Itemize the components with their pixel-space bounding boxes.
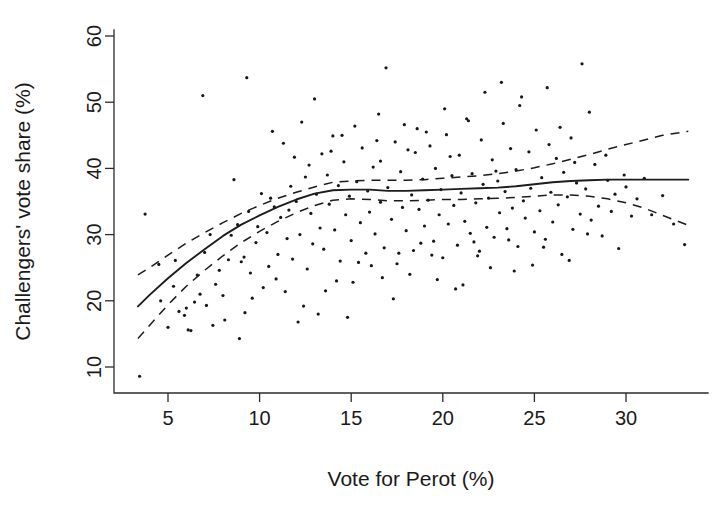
data-point xyxy=(566,195,569,198)
data-point xyxy=(509,147,512,150)
data-point xyxy=(322,248,325,251)
data-point xyxy=(392,297,395,300)
data-point xyxy=(361,146,364,149)
data-point xyxy=(271,130,274,133)
data-point xyxy=(198,293,201,296)
data-point xyxy=(174,259,177,262)
data-point xyxy=(238,337,241,340)
data-point xyxy=(306,267,309,270)
data-point xyxy=(496,179,499,182)
data-point xyxy=(342,160,345,163)
fit-curves xyxy=(138,131,688,338)
data-point xyxy=(285,237,288,240)
data-point xyxy=(478,250,481,253)
data-point xyxy=(610,210,613,213)
y-tick-label: 20 xyxy=(83,290,105,312)
data-point xyxy=(469,232,472,235)
data-point xyxy=(458,154,461,157)
data-point xyxy=(471,172,474,175)
data-point xyxy=(410,193,413,196)
data-point xyxy=(348,195,351,198)
data-point xyxy=(482,183,485,186)
x-tick-label: 5 xyxy=(162,407,173,429)
data-point xyxy=(324,289,327,292)
data-point xyxy=(476,254,479,257)
data-point xyxy=(205,304,208,307)
data-point xyxy=(500,81,503,84)
data-point xyxy=(573,161,576,164)
data-point xyxy=(201,94,204,97)
data-point xyxy=(357,261,360,264)
data-point xyxy=(601,234,604,237)
data-point xyxy=(232,178,235,181)
data-point xyxy=(535,128,538,131)
data-point xyxy=(284,290,287,293)
data-point xyxy=(450,174,453,177)
data-point xyxy=(485,226,488,229)
data-point xyxy=(318,226,321,229)
y-tick-label: 30 xyxy=(83,223,105,245)
data-point xyxy=(405,229,408,232)
x-axis-title: Vote for Perot (%) xyxy=(328,467,495,490)
data-point xyxy=(172,285,175,288)
data-point xyxy=(661,194,664,197)
data-point xyxy=(524,216,527,219)
data-point xyxy=(242,256,245,259)
data-point xyxy=(613,193,616,196)
data-point xyxy=(383,246,386,249)
data-point xyxy=(423,224,426,227)
data-point xyxy=(516,245,519,248)
data-point xyxy=(513,269,516,272)
data-point xyxy=(346,316,349,319)
data-point xyxy=(406,148,409,151)
data-point xyxy=(588,111,591,114)
data-point xyxy=(311,242,314,245)
data-point xyxy=(417,208,420,211)
data-point xyxy=(489,266,492,269)
data-point xyxy=(337,184,340,187)
data-point xyxy=(296,320,299,323)
data-point xyxy=(430,254,433,257)
axis-spines xyxy=(114,30,708,393)
data-point xyxy=(304,175,307,178)
data-point xyxy=(461,283,464,286)
axis-labels: 51015202530102030405060Vote for Perot (%… xyxy=(11,25,637,490)
data-point xyxy=(227,258,230,261)
data-point xyxy=(189,329,192,332)
data-point xyxy=(568,259,571,262)
data-point xyxy=(359,221,362,224)
data-point xyxy=(390,218,393,221)
data-point xyxy=(474,201,477,204)
data-point xyxy=(209,233,212,236)
data-point xyxy=(483,91,486,94)
data-point xyxy=(377,113,380,116)
data-point xyxy=(425,130,428,133)
data-point xyxy=(386,186,389,189)
data-point xyxy=(412,249,415,252)
scatter-points xyxy=(138,62,686,378)
data-point xyxy=(331,134,334,137)
data-point xyxy=(218,269,221,272)
data-point xyxy=(531,263,534,266)
data-point xyxy=(480,138,483,141)
data-point xyxy=(157,263,160,266)
data-point xyxy=(460,191,463,194)
data-point xyxy=(544,238,547,241)
data-point xyxy=(522,199,525,202)
data-point xyxy=(445,133,448,136)
data-point xyxy=(211,324,214,327)
data-point xyxy=(302,305,305,308)
data-point xyxy=(549,191,552,194)
data-point xyxy=(144,212,147,215)
data-point xyxy=(373,232,376,235)
data-point xyxy=(166,326,169,329)
data-point xyxy=(269,197,272,200)
data-point xyxy=(491,158,494,161)
data-point xyxy=(580,62,583,65)
data-point xyxy=(344,213,347,216)
data-point xyxy=(672,222,675,225)
data-point xyxy=(584,187,587,190)
data-point xyxy=(416,127,419,130)
data-point xyxy=(624,185,627,188)
data-point xyxy=(449,155,452,158)
